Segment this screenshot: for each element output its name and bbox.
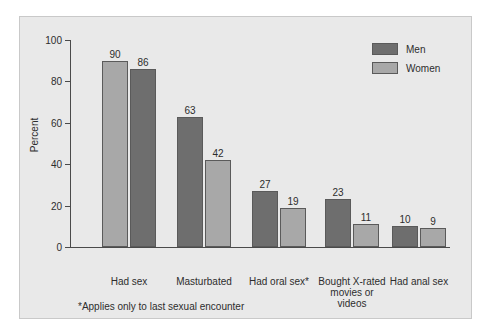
category-label-line: Had anal sex <box>364 276 474 287</box>
bar-value-label: 86 <box>137 57 148 68</box>
bar-value-label: 23 <box>332 187 343 198</box>
bar: 23 <box>325 199 351 247</box>
category-label-line: movies or <box>297 287 407 298</box>
bar-value-label: 9 <box>430 216 436 227</box>
y-axis-tick-label: 100 <box>45 35 62 46</box>
bar-value-label: 19 <box>287 196 298 207</box>
bar-value-label: 63 <box>184 105 195 116</box>
bar: 19 <box>280 208 306 247</box>
legend-swatch-men <box>372 43 398 55</box>
legend: MenWomen <box>372 43 440 81</box>
y-axis-tick <box>65 40 70 41</box>
y-axis-tick-label: 0 <box>56 242 62 253</box>
y-axis-tick <box>65 206 70 207</box>
y-axis-tick <box>65 247 70 248</box>
bar-chart-figure: Percent 020406080100 9086634227192311109… <box>0 0 491 336</box>
bar-value-label: 90 <box>109 49 120 60</box>
legend-swatch-women <box>372 62 398 74</box>
y-axis-line <box>70 40 71 248</box>
bar-value-label: 27 <box>259 179 270 190</box>
bar: 10 <box>392 226 418 247</box>
bar-group: 2311 <box>325 39 379 247</box>
bar-value-label: 11 <box>361 212 371 223</box>
bar-value-label: 42 <box>212 148 223 159</box>
legend-item-men: Men <box>372 43 440 55</box>
y-axis-tick <box>65 164 70 165</box>
bar-group: 2719 <box>252 39 306 247</box>
x-axis-category-label: Had anal sex <box>364 276 474 287</box>
legend-label-women: Women <box>406 63 440 74</box>
bar: 63 <box>177 117 203 247</box>
y-axis-tick-label: 60 <box>51 117 62 128</box>
bar: 11 <box>353 224 379 247</box>
bar-group: 9086 <box>102 39 156 247</box>
bar: 86 <box>130 69 156 247</box>
y-axis-tick-label: 20 <box>51 200 62 211</box>
bar-group: 6342 <box>177 39 231 247</box>
y-axis-tick-label: 80 <box>51 76 62 87</box>
y-axis-tick <box>65 81 70 82</box>
y-axis-tick <box>65 123 70 124</box>
category-label-line: videos <box>297 298 407 309</box>
bar: 9 <box>420 228 446 247</box>
y-axis-title: Percent <box>29 118 40 152</box>
footnote: *Applies only to last sexual encounter <box>78 301 244 312</box>
y-axis-tick-label: 40 <box>51 159 62 170</box>
legend-label-men: Men <box>406 44 425 55</box>
bar: 27 <box>252 191 278 247</box>
x-axis-line <box>70 247 450 248</box>
chart-panel: Percent 020406080100 9086634227192311109… <box>19 16 472 319</box>
bar-value-label: 10 <box>399 214 410 225</box>
bar: 90 <box>102 61 128 247</box>
legend-item-women: Women <box>372 62 440 74</box>
bar: 42 <box>205 160 231 247</box>
